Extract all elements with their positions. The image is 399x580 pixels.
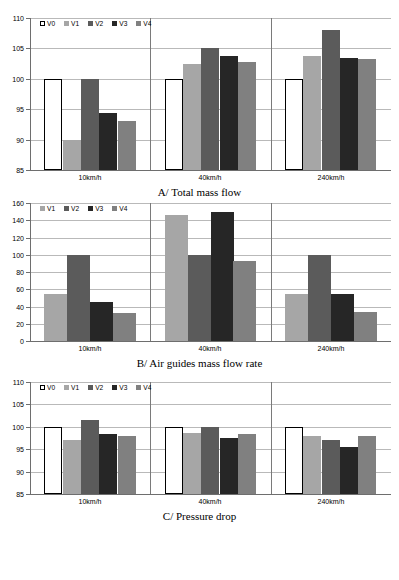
x-axis-label: 10km/h <box>79 498 102 506</box>
bar-v3-10kmh <box>99 434 117 494</box>
chart-legend: V0V1V2V3V4 <box>40 384 151 391</box>
bar-v2-40kmh <box>201 427 219 494</box>
y-axis-label: 110 <box>0 379 24 386</box>
y-axis-tick <box>26 494 30 495</box>
bar-v3-40kmh <box>211 212 234 341</box>
legend-label: V1 <box>71 384 79 391</box>
legend-item-v4: V4 <box>136 20 151 27</box>
bar-v1-10kmh <box>63 140 81 170</box>
y-axis-label: 120 <box>0 235 24 242</box>
y-axis-label: 100 <box>0 76 24 83</box>
x-axis-label: 40km/h <box>199 498 222 506</box>
bar-v4-240kmh <box>358 436 376 494</box>
y-axis-label: 100 <box>0 252 24 259</box>
bar-v1-40kmh <box>183 433 201 494</box>
bar-v3-240kmh <box>340 447 358 494</box>
legend-label: V3 <box>119 20 127 27</box>
legend-swatch-icon <box>136 21 141 26</box>
legend-swatch-icon <box>40 21 45 26</box>
legend-swatch-icon <box>112 385 117 390</box>
y-axis-label: 160 <box>0 200 24 207</box>
chart-panel-b: 02040608010012014016010km/h40km/h240km/h… <box>0 187 399 367</box>
legend-label: V2 <box>95 384 103 391</box>
legend-label: V4 <box>119 205 127 212</box>
bar-v2-10kmh <box>81 79 99 170</box>
bar-v0-240kmh <box>285 79 303 170</box>
category-separator <box>150 203 151 341</box>
bar-v3-40kmh <box>220 56 238 170</box>
legend-swatch-icon <box>112 206 117 211</box>
legend-swatch-icon <box>40 385 45 390</box>
legend-swatch-icon <box>64 206 69 211</box>
x-axis-label: 240km/h <box>318 498 345 506</box>
chart-panel-a: 85909510010511010km/h40km/h240km/hV0V1V2… <box>0 2 399 198</box>
bar-v4-240kmh <box>358 59 376 170</box>
bar-v0-240kmh <box>285 427 303 494</box>
gridline <box>30 494 391 495</box>
legend-swatch-icon <box>136 385 141 390</box>
x-axis-label: 240km/h <box>318 174 345 182</box>
bar-v2-240kmh <box>322 30 340 170</box>
legend-item-v2: V2 <box>88 20 103 27</box>
bar-v4-10kmh <box>118 121 136 170</box>
legend-item-v1: V1 <box>40 205 55 212</box>
gridline <box>30 341 391 342</box>
legend-label: V1 <box>71 20 79 27</box>
legend-label: V3 <box>119 384 127 391</box>
y-axis-line <box>30 382 31 494</box>
legend-label: V0 <box>47 384 55 391</box>
legend-label: V2 <box>71 205 79 212</box>
x-axis-label: 10km/h <box>79 345 102 353</box>
bar-v0-10kmh <box>44 427 62 494</box>
chart-panel-c: 85909510010511010km/h40km/h240km/hV0V1V2… <box>0 366 399 564</box>
gridline <box>30 382 391 383</box>
category-separator <box>150 18 151 170</box>
y-axis-tick <box>26 170 30 171</box>
legend-item-v3: V3 <box>112 384 127 391</box>
legend-item-v1: V1 <box>64 20 79 27</box>
category-separator <box>271 382 272 494</box>
legend-item-v3: V3 <box>112 20 127 27</box>
legend-swatch-icon <box>64 385 69 390</box>
bar-v3-10kmh <box>90 302 113 341</box>
bar-v1-240kmh <box>285 294 308 341</box>
chart-legend: V1V2V3V4 <box>40 205 127 212</box>
bar-v1-240kmh <box>303 436 321 494</box>
legend-item-v0: V0 <box>40 384 55 391</box>
y-axis-label: 85 <box>0 167 24 174</box>
bar-v4-40kmh <box>233 261 256 341</box>
bar-v1-40kmh <box>165 215 188 341</box>
bar-v4-240kmh <box>354 312 377 341</box>
bar-v3-240kmh <box>331 294 354 341</box>
bar-v2-40kmh <box>188 255 211 341</box>
y-axis-label: 90 <box>0 469 24 476</box>
chart-caption-chart-c: C/ Pressure drop <box>0 510 399 522</box>
legend-label: V4 <box>143 20 151 27</box>
bar-v1-240kmh <box>303 56 321 170</box>
legend-label: V3 <box>95 205 103 212</box>
y-axis-label: 110 <box>0 15 24 22</box>
y-axis-label: 60 <box>0 286 24 293</box>
legend-swatch-icon <box>88 21 93 26</box>
y-axis-label: 90 <box>0 137 24 144</box>
y-axis-label: 85 <box>0 491 24 498</box>
y-axis-label: 0 <box>0 338 24 345</box>
legend-swatch-icon <box>64 21 69 26</box>
bar-v3-40kmh <box>220 438 238 494</box>
legend-item-v2: V2 <box>88 384 103 391</box>
y-axis-label: 95 <box>0 446 24 453</box>
legend-label: V4 <box>143 384 151 391</box>
bar-v0-10kmh <box>44 79 62 170</box>
bar-v4-40kmh <box>238 62 256 170</box>
y-axis-label: 80 <box>0 269 24 276</box>
gridline <box>30 203 391 204</box>
legend-item-v1: V1 <box>64 384 79 391</box>
gridline <box>30 404 391 405</box>
legend-item-v2: V2 <box>64 205 79 212</box>
bar-v2-10kmh <box>81 420 99 494</box>
y-axis-label: 105 <box>0 401 24 408</box>
legend-swatch-icon <box>112 21 117 26</box>
legend-label: V2 <box>95 20 103 27</box>
chart-legend: V0V1V2V3V4 <box>40 20 151 27</box>
bar-v1-10kmh <box>44 294 67 341</box>
